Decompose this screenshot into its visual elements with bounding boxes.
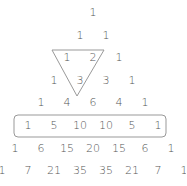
- triangle-number: 1: [51, 75, 58, 86]
- triangle-number: 1: [25, 120, 32, 131]
- triangle-number: 1: [129, 75, 136, 86]
- triangle-number: 35: [73, 165, 87, 176]
- highlight-overlay: [0, 0, 186, 186]
- triangle-number: 1: [181, 165, 187, 176]
- triangle-number: 1: [0, 165, 6, 176]
- triangle-number: 6: [142, 143, 149, 154]
- triangle-number: 1: [103, 30, 110, 41]
- triangle-number: 7: [155, 165, 162, 176]
- triangle-number: 6: [90, 97, 97, 108]
- pascals-triangle-diagram: 1111211331146411510105116152015611721353…: [0, 0, 186, 186]
- triangle-number: 1: [90, 7, 97, 18]
- triangle-number: 6: [38, 143, 45, 154]
- triangle-number: 10: [99, 120, 113, 131]
- triangle-number: 20: [86, 143, 100, 154]
- triangle-number: 1: [155, 120, 162, 131]
- triangle-number: 1: [142, 97, 149, 108]
- row-box-highlight: [14, 115, 166, 137]
- triangle-number: 1: [168, 143, 175, 154]
- triangle-number: 1: [38, 97, 45, 108]
- triangle-number: 35: [99, 165, 113, 176]
- triangle-number: 21: [125, 165, 139, 176]
- triangle-number: 21: [47, 165, 61, 176]
- triangle-number: 1: [12, 143, 19, 154]
- triangle-number: 1: [116, 52, 123, 63]
- triangle-number: 4: [64, 97, 71, 108]
- triangle-number: 2: [90, 52, 97, 63]
- triangle-number: 10: [73, 120, 87, 131]
- triangle-number: 15: [60, 143, 74, 154]
- triangle-number: 1: [77, 30, 84, 41]
- triangle-number: 3: [77, 75, 84, 86]
- triangle-number: 3: [103, 75, 110, 86]
- triangle-number: 5: [129, 120, 136, 131]
- triangle-number: 1: [64, 52, 71, 63]
- triangle-number: 15: [112, 143, 126, 154]
- triangle-number: 4: [116, 97, 123, 108]
- triangle-number: 7: [25, 165, 32, 176]
- triangle-number: 5: [51, 120, 58, 131]
